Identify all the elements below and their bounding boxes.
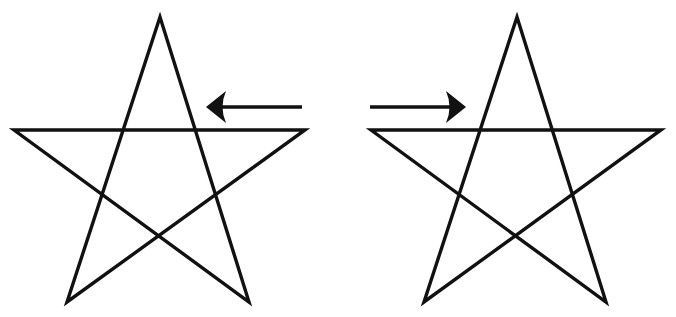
- left-star: [14, 17, 305, 302]
- left-star-outline: [14, 17, 305, 302]
- pentagram-diagram: [0, 0, 676, 317]
- right-star: [371, 17, 661, 302]
- figure-canvas: [0, 0, 676, 317]
- left-arrow: [206, 91, 302, 123]
- right-arrow: [370, 91, 466, 123]
- right-star-outline: [371, 17, 661, 302]
